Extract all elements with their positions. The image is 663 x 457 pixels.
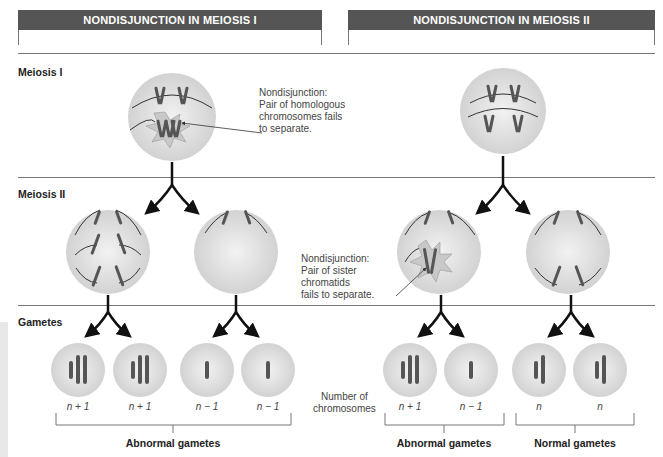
gamete-count-label: n + 1 <box>58 401 98 412</box>
bracket-left-abnormal <box>56 413 291 433</box>
gamete-count-label: n − 1 <box>248 401 288 412</box>
group-label-left-abnormal: Abnormal gametes <box>113 437 233 449</box>
gamete-count-label: n + 1 <box>390 401 430 412</box>
number-of-chromosomes-label: Number of chromosomes <box>313 391 376 415</box>
cell-meiosis1-left <box>128 73 262 161</box>
note-line: fails to separate. <box>301 289 374 301</box>
gamete-count-label: n − 1 <box>451 401 491 412</box>
note-line: Nondisjunction: <box>259 87 345 99</box>
group-label-right-normal: Normal gametes <box>515 437 635 449</box>
group-label-right-abnormal: Abnormal gametes <box>384 437 504 449</box>
gamete-count-label: n − 1 <box>187 401 227 412</box>
split-arrow-left <box>150 162 194 210</box>
note-line: chromatids <box>301 277 374 289</box>
gamete-5 <box>383 343 437 397</box>
cell-meiosis1-right <box>460 68 546 154</box>
gamete-8 <box>573 343 627 397</box>
diagram-canvas <box>0 0 663 457</box>
split-arrow-right <box>481 156 525 210</box>
gamete-6 <box>444 343 498 397</box>
meiosis2-nondisjunction-note: Nondisjunction: Pair of sister chromatid… <box>301 253 374 301</box>
gamete-count-label: n <box>580 401 620 412</box>
note-line: chromosomes fails <box>259 111 345 123</box>
gamete-2 <box>113 343 167 397</box>
note-line: chromosomes <box>313 403 376 415</box>
gamete-count-label: n <box>519 401 559 412</box>
cell-meiosis2-2 <box>194 210 278 294</box>
note-line: Pair of sister <box>301 265 374 277</box>
cell-meiosis2-1 <box>66 210 150 294</box>
meiosis1-nondisjunction-note: Nondisjunction: Pair of homologous chrom… <box>259 87 345 135</box>
gamete-count-label: n + 1 <box>120 401 160 412</box>
cell-meiosis2-3 <box>396 210 481 296</box>
gamete-3 <box>180 343 234 397</box>
bracket-right-normal <box>516 413 634 433</box>
gamete-1 <box>51 343 105 397</box>
note-line: to separate. <box>259 123 345 135</box>
gamete-4 <box>241 343 295 397</box>
bracket-right-abnormal <box>385 413 504 433</box>
cell-meiosis2-4 <box>526 210 610 294</box>
note-line: Pair of homologous <box>259 99 345 111</box>
note-line: Number of <box>313 391 376 403</box>
note-line: Nondisjunction: <box>301 253 374 265</box>
gamete-7 <box>512 343 566 397</box>
